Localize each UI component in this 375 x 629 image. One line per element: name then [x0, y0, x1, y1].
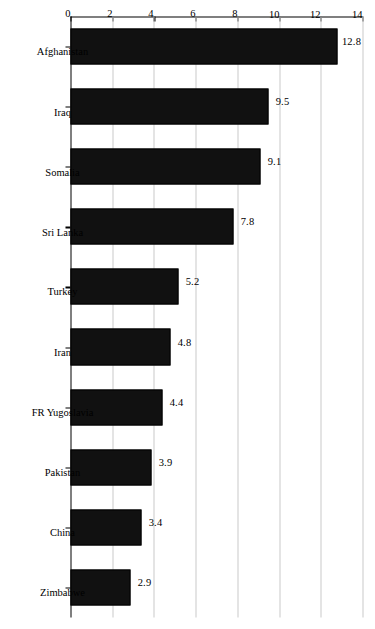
- category-axis-cell: Iraq: [2, 76, 70, 136]
- category-axis-cell: FR Yugoslavia: [2, 377, 70, 437]
- category-axis-cell: China: [2, 497, 70, 557]
- bar-iran[interactable]: [70, 328, 170, 364]
- bar-slot-iraq: 9.5: [70, 76, 362, 136]
- bar-pakistan[interactable]: [70, 449, 151, 485]
- category-axis-cell: Zimbabwe: [2, 557, 70, 617]
- bar-slot-afghanistan: 12.8: [70, 16, 362, 76]
- bar-value-label-pakistan: 3.9: [158, 456, 172, 467]
- category-label-turkey: Turkey: [47, 286, 77, 297]
- value-axis: 02468101214: [70, 0, 362, 16]
- bar-turkey[interactable]: [70, 268, 178, 304]
- bar-afghanistan[interactable]: [70, 28, 337, 64]
- bar-value-label-sri-lanka: 7.8: [240, 215, 254, 226]
- category-axis-cell: Pakistan: [2, 437, 70, 497]
- bar-value-label-afghanistan: 12.8: [341, 35, 360, 46]
- category-axis-cell: Afghanistan: [2, 16, 70, 76]
- category-label-somalia: Somalia: [45, 166, 79, 177]
- bar-slot-zimbabwe: 2.9: [70, 557, 362, 617]
- category-label-iran: Iran: [54, 347, 71, 358]
- bar-slot-fr-yugoslavia: 4.4: [70, 377, 362, 437]
- category-label-iraq: Iraq: [54, 106, 71, 117]
- category-axis-cell: Sri Lanka: [2, 196, 70, 256]
- bar-chart-figure: 02468101214 12.89.59.17.85.24.84.43.93.4…: [0, 0, 375, 629]
- bar-slot-iran: 4.8: [70, 316, 362, 376]
- bar-value-label-zimbabwe: 2.9: [138, 576, 152, 587]
- bar-slot-turkey: 5.2: [70, 256, 362, 316]
- category-label-pakistan: Pakistan: [44, 467, 80, 478]
- bar-value-label-china: 3.4: [148, 516, 162, 527]
- bar-value-label-iraq: 9.5: [275, 95, 289, 106]
- bar-china[interactable]: [70, 509, 141, 545]
- bar-sri-lanka[interactable]: [70, 208, 233, 244]
- bar-slot-china: 3.4: [70, 497, 362, 557]
- category-axis: AfghanistanIraqSomaliaSri LankaTurkeyIra…: [2, 16, 70, 617]
- bar-slot-somalia: 9.1: [70, 136, 362, 196]
- bar-value-label-turkey: 5.2: [186, 275, 200, 286]
- category-label-china: China: [49, 527, 74, 538]
- bar-iraq[interactable]: [70, 88, 268, 124]
- category-label-fr-yugoslavia: FR Yugoslavia: [31, 407, 93, 418]
- bars-group: 12.89.59.17.85.24.84.43.93.42.9: [70, 16, 362, 617]
- category-axis-cell: Iran: [2, 316, 70, 376]
- bar-slot-pakistan: 3.9: [70, 437, 362, 497]
- bar-value-label-fr-yugoslavia: 4.4: [169, 396, 183, 407]
- category-label-zimbabwe: Zimbabwe: [40, 587, 85, 598]
- bar-value-label-somalia: 9.1: [267, 155, 281, 166]
- category-label-afghanistan: Afghanistan: [36, 46, 87, 57]
- bar-value-label-iran: 4.8: [177, 336, 191, 347]
- bar-somalia[interactable]: [70, 148, 260, 184]
- bar-slot-sri-lanka: 7.8: [70, 196, 362, 256]
- category-axis-cell: Turkey: [2, 256, 70, 316]
- category-axis-cell: Somalia: [2, 136, 70, 196]
- category-label-sri-lanka: Sri Lanka: [41, 226, 82, 237]
- plot-area: 12.89.59.17.85.24.84.43.93.42.9: [70, 16, 362, 617]
